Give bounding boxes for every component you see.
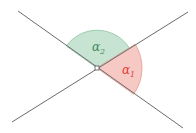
line-b xyxy=(12,12,188,122)
intersecting-lines-figure: α2 α1 xyxy=(0,0,196,133)
diagram: α2 α1 xyxy=(0,0,196,133)
line-a xyxy=(18,11,183,128)
intersection-point xyxy=(95,66,99,70)
